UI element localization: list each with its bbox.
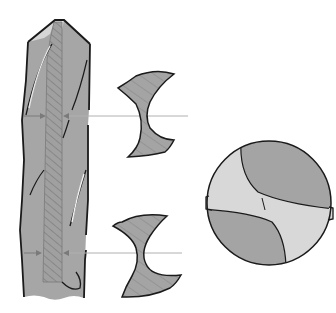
drill-diagram: Twist drill with web cross-sections and …	[0, 0, 336, 313]
section-lower	[113, 215, 181, 297]
section-upper	[118, 71, 174, 157]
drill-side-view	[20, 20, 90, 300]
end-view	[200, 130, 335, 270]
diagram-canvas	[0, 0, 336, 313]
